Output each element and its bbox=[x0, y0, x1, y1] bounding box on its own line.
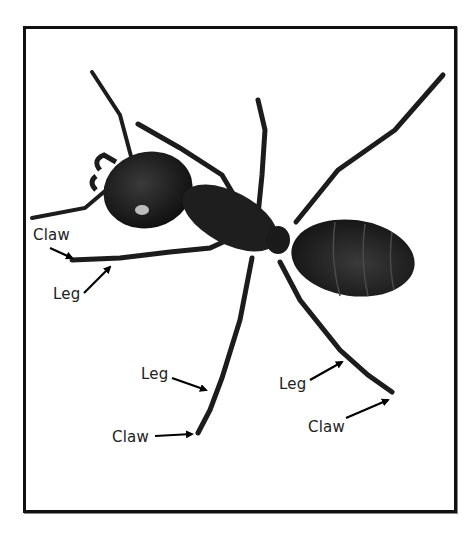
leg-front-upper bbox=[258, 100, 265, 215]
label-leg-bottom: Leg bbox=[141, 367, 168, 382]
leg-hind-upper bbox=[296, 75, 443, 222]
ant-eye bbox=[135, 205, 149, 215]
arrow-claw-right bbox=[346, 400, 388, 418]
label-leg-left: Leg bbox=[53, 287, 80, 302]
label-claw-left: Claw bbox=[33, 228, 70, 243]
arrow-leg-left bbox=[84, 267, 110, 293]
ant-head bbox=[92, 142, 201, 239]
label-leg-right: Leg bbox=[279, 377, 306, 392]
leg-front-left bbox=[72, 238, 232, 260]
label-claw-right: Claw bbox=[308, 420, 345, 435]
arrow-claw-left bbox=[50, 248, 72, 258]
arrow-leg-right bbox=[310, 362, 342, 380]
ant-illustration bbox=[0, 0, 473, 533]
arrow-claw-bottom bbox=[155, 434, 192, 436]
label-claw-bottom: Claw bbox=[112, 430, 149, 445]
leg-middle-left bbox=[198, 258, 252, 433]
arrow-leg-bottom bbox=[172, 378, 206, 390]
ant-abdomen bbox=[286, 212, 419, 305]
antenna-left bbox=[92, 72, 132, 160]
